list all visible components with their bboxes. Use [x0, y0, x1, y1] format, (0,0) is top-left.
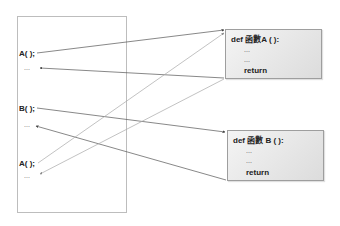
call-return-arrows: [0, 0, 340, 226]
function-call-diagram: A( ); ... B( ); ... A( ); ... def 函數A ( …: [0, 0, 340, 226]
arrow-return-a-second: [40, 79, 224, 174]
arrow-call-a-first: [37, 30, 224, 53]
arrow-call-b: [37, 108, 225, 132]
arrow-return-a-first: [40, 68, 224, 78]
arrow-return-b: [36, 126, 226, 180]
arrow-call-a-second: [38, 33, 224, 163]
